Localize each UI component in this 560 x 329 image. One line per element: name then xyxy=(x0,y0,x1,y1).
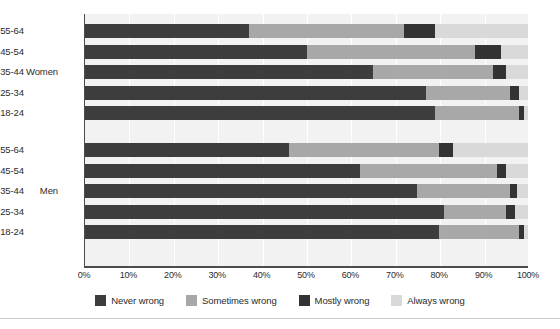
segment-always-wrong xyxy=(524,225,528,239)
bars-layer xyxy=(85,14,528,266)
x-axis-tick: 50% xyxy=(284,270,328,280)
category-label: 55-64 xyxy=(0,25,24,37)
segment-sometimes-wrong xyxy=(249,24,404,38)
segment-never-wrong xyxy=(85,65,373,79)
segment-always-wrong xyxy=(517,184,528,198)
x-axis-tick: 10% xyxy=(106,270,150,280)
x-axis-tick: 100% xyxy=(506,270,550,280)
segment-mostly-wrong xyxy=(510,184,517,198)
x-axis-tick: 20% xyxy=(151,270,195,280)
category-label: 35-44 xyxy=(0,66,24,78)
legend-label: Sometimes wrong xyxy=(202,295,277,306)
category-label: 45-54 xyxy=(0,46,24,58)
legend-swatch-icon xyxy=(391,295,402,306)
x-axis-line xyxy=(84,266,528,268)
segment-sometimes-wrong xyxy=(373,65,493,79)
x-axis-tick: 30% xyxy=(195,270,239,280)
segment-mostly-wrong xyxy=(506,205,515,219)
segment-sometimes-wrong xyxy=(439,225,519,239)
segment-always-wrong xyxy=(524,106,528,120)
segment-always-wrong xyxy=(515,205,528,219)
segment-sometimes-wrong xyxy=(444,205,506,219)
legend-swatch-icon xyxy=(95,295,106,306)
segment-mostly-wrong xyxy=(404,24,435,38)
x-axis-tick: 40% xyxy=(240,270,284,280)
category-label: 18-24 xyxy=(0,226,24,238)
bar-row xyxy=(85,45,528,59)
segment-sometimes-wrong xyxy=(426,86,510,100)
segment-sometimes-wrong xyxy=(417,184,510,198)
segment-always-wrong xyxy=(435,24,528,38)
segment-never-wrong xyxy=(85,164,360,178)
bar-row xyxy=(85,225,528,239)
legend-label: Always wrong xyxy=(407,295,464,306)
bar-row xyxy=(85,143,528,157)
legend-label: Mostly wrong xyxy=(315,295,370,306)
segment-always-wrong xyxy=(453,143,528,157)
category-label: 55-64 xyxy=(0,144,24,156)
bar-row xyxy=(85,164,528,178)
bar-row xyxy=(85,184,528,198)
x-axis-tick: 70% xyxy=(373,270,417,280)
x-axis-tick: 0% xyxy=(62,270,106,280)
segment-never-wrong xyxy=(85,143,289,157)
segment-never-wrong xyxy=(85,45,307,59)
stacked-bar-chart: WomenMen 55-6445-5435-4425-3418-2455-644… xyxy=(0,0,560,329)
bar-row xyxy=(85,86,528,100)
category-label: 35-44 xyxy=(0,185,24,197)
legend-item[interactable]: Always wrong xyxy=(391,295,464,306)
segment-always-wrong xyxy=(519,86,528,100)
segment-mostly-wrong xyxy=(510,86,519,100)
segment-sometimes-wrong xyxy=(307,45,475,59)
plot-area xyxy=(84,14,528,266)
segment-never-wrong xyxy=(85,106,435,120)
footer-divider xyxy=(0,318,560,319)
x-axis-tick: 90% xyxy=(462,270,506,280)
legend-swatch-icon xyxy=(299,295,310,306)
legend-item[interactable]: Sometimes wrong xyxy=(186,295,277,306)
segment-mostly-wrong xyxy=(497,164,506,178)
x-axis-tick: 80% xyxy=(417,270,461,280)
segment-never-wrong xyxy=(85,205,444,219)
chart-legend: Never wrongSometimes wrongMostly wrongAl… xyxy=(0,290,560,310)
segment-always-wrong xyxy=(501,45,528,59)
category-label: 25-34 xyxy=(0,206,24,218)
segment-always-wrong xyxy=(506,164,528,178)
legend-item[interactable]: Never wrong xyxy=(95,295,164,306)
segment-never-wrong xyxy=(85,24,249,38)
segment-never-wrong xyxy=(85,184,417,198)
x-axis-tick: 60% xyxy=(328,270,372,280)
category-label: 18-24 xyxy=(0,107,24,119)
segment-mostly-wrong xyxy=(493,65,506,79)
legend-swatch-icon xyxy=(186,295,197,306)
bar-row xyxy=(85,24,528,38)
bar-row xyxy=(85,106,528,120)
segment-mostly-wrong xyxy=(475,45,502,59)
segment-never-wrong xyxy=(85,225,439,239)
x-axis-tick-labels: 0%10%20%30%40%50%60%70%80%90%100% xyxy=(0,270,560,284)
bar-row xyxy=(85,65,528,79)
category-label: 45-54 xyxy=(0,165,24,177)
segment-sometimes-wrong xyxy=(360,164,497,178)
segment-mostly-wrong xyxy=(439,143,452,157)
segment-always-wrong xyxy=(506,65,528,79)
segment-sometimes-wrong xyxy=(289,143,440,157)
bar-row xyxy=(85,205,528,219)
category-label: 25-34 xyxy=(0,87,24,99)
gridline xyxy=(529,14,530,266)
legend-label: Never wrong xyxy=(111,295,164,306)
legend-item[interactable]: Mostly wrong xyxy=(299,295,370,306)
segment-never-wrong xyxy=(85,86,426,100)
segment-sometimes-wrong xyxy=(435,106,519,120)
